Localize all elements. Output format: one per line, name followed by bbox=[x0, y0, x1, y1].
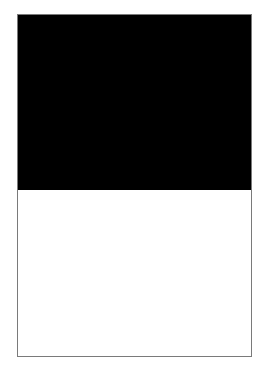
white-bottom-panel bbox=[18, 190, 251, 356]
split-rectangle bbox=[17, 14, 252, 357]
black-top-panel bbox=[18, 15, 251, 190]
canvas bbox=[0, 0, 272, 368]
